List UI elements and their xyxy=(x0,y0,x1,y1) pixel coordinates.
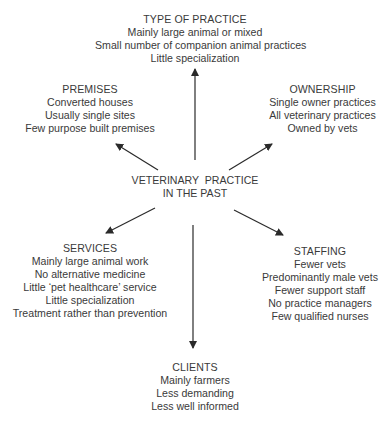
node-item: Mainly farmers xyxy=(125,374,265,387)
node-item: No practice managers xyxy=(250,297,390,310)
node-ownership: OWNERSHIP Single owner practices All vet… xyxy=(255,83,390,135)
node-premises: PREMISES Converted houses Usually single… xyxy=(15,83,165,135)
node-item: Owned by vets xyxy=(255,122,390,135)
node-item: Mainly large animal or mixed xyxy=(95,26,295,39)
node-item: Mainly large animal work xyxy=(5,255,175,268)
node-item: Little specialization xyxy=(5,294,175,307)
center-node: VETERINARY PRACTICE IN THE PAST xyxy=(115,174,275,200)
arrow-to-premises xyxy=(116,144,158,170)
arrow-to-ownership xyxy=(229,144,272,170)
node-staffing: STAFFING Fewer vets Predominantly male v… xyxy=(250,245,390,323)
node-item: Few qualified nurses xyxy=(250,310,390,323)
node-title: SERVICES xyxy=(5,242,175,255)
node-item: No alternative medicine xyxy=(5,268,175,281)
node-clients: CLIENTS Mainly farmers Less demanding Le… xyxy=(125,361,265,413)
node-item: Predominantly male vets xyxy=(250,271,390,284)
node-type-of-practice: TYPE OF PRACTICE Mainly large animal or … xyxy=(95,13,295,65)
node-item: Single owner practices xyxy=(255,96,390,109)
node-item: Small number of companion animal practic… xyxy=(95,39,295,52)
node-item: Usually single sites xyxy=(15,109,165,122)
node-item: Treatment rather than prevention xyxy=(5,307,175,320)
arrow-to-staffing xyxy=(234,210,283,235)
node-item: Little ‘pet healthcare’ service xyxy=(5,281,175,294)
node-item: Less well informed xyxy=(125,400,265,413)
node-item: All veterinary practices xyxy=(255,109,390,122)
node-services: SERVICES Mainly large animal work No alt… xyxy=(5,242,175,320)
arrow-to-services xyxy=(106,208,155,233)
node-title: STAFFING xyxy=(250,245,390,258)
node-title: PREMISES xyxy=(15,83,165,96)
node-item: Converted houses xyxy=(15,96,165,109)
node-item: Less demanding xyxy=(125,387,265,400)
node-title: TYPE OF PRACTICE xyxy=(95,13,295,26)
node-item: Fewer vets xyxy=(250,258,390,271)
node-item: Little specialization xyxy=(95,52,295,65)
node-item: Fewer support staff xyxy=(250,284,390,297)
center-line-1: VETERINARY PRACTICE xyxy=(115,174,275,187)
node-title: OWNERSHIP xyxy=(255,83,390,96)
node-title: CLIENTS xyxy=(125,361,265,374)
node-item: Few purpose built premises xyxy=(15,122,165,135)
center-line-2: IN THE PAST xyxy=(115,187,275,200)
